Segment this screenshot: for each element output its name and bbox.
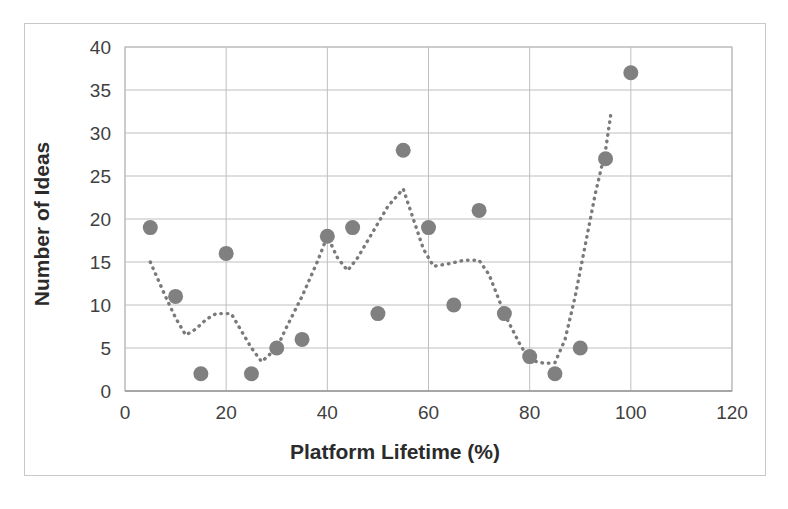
y-tick-label: 20 <box>90 209 111 230</box>
y-axis-tick-labels: 0510152025303540 <box>90 37 111 402</box>
x-tick-label: 80 <box>519 402 540 423</box>
data-point <box>497 306 512 321</box>
scatter-plot: 020406080100120 0510152025303540 Platfor… <box>25 24 765 475</box>
trendline <box>150 116 610 364</box>
data-point <box>547 366 562 381</box>
y-tick-label: 40 <box>90 37 111 58</box>
data-point <box>193 366 208 381</box>
data-point <box>522 349 537 364</box>
y-tick-label: 0 <box>100 381 111 402</box>
data-point <box>623 65 638 80</box>
data-point <box>396 143 411 158</box>
x-tick-label: 100 <box>615 402 647 423</box>
x-axis-tick-labels: 020406080100120 <box>120 402 748 423</box>
data-point <box>244 366 259 381</box>
data-point <box>472 203 487 218</box>
data-point <box>320 229 335 244</box>
y-tick-label: 30 <box>90 123 111 144</box>
y-tick-label: 5 <box>100 338 111 359</box>
data-points <box>143 65 639 381</box>
data-point <box>345 220 360 235</box>
trendline-path <box>150 116 610 364</box>
y-tick-label: 35 <box>90 80 111 101</box>
data-point <box>421 220 436 235</box>
data-point <box>446 298 461 313</box>
x-tick-label: 20 <box>216 402 237 423</box>
data-point <box>573 341 588 356</box>
gridlines <box>125 47 732 391</box>
data-point <box>143 220 158 235</box>
x-tick-label: 120 <box>716 402 748 423</box>
data-point <box>598 151 613 166</box>
y-axis-title: Number of Ideas <box>30 142 53 307</box>
x-tick-label: 40 <box>317 402 338 423</box>
x-tick-label: 60 <box>418 402 439 423</box>
x-tick-label: 0 <box>120 402 131 423</box>
x-axis-title: Platform Lifetime (%) <box>290 440 500 463</box>
data-point <box>269 341 284 356</box>
data-point <box>219 246 234 261</box>
y-tick-label: 25 <box>90 166 111 187</box>
data-point <box>168 289 183 304</box>
chart-figure: 020406080100120 0510152025303540 Platfor… <box>24 23 766 476</box>
y-tick-label: 10 <box>90 295 111 316</box>
data-point <box>370 306 385 321</box>
data-point <box>295 332 310 347</box>
y-tick-label: 15 <box>90 252 111 273</box>
